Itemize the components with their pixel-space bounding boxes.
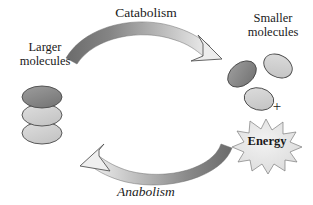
larger-molecules-label: Larger molecules xyxy=(5,41,85,68)
smaller-molecules-label: Smaller molecules xyxy=(235,12,311,39)
catabolism-arrow xyxy=(66,22,222,64)
anabolism-arrow xyxy=(80,144,232,185)
plus-sign-label: + xyxy=(268,98,286,114)
larger-ellipse-top xyxy=(22,86,62,108)
energy-label: Energy xyxy=(238,135,296,149)
anabolism-label: Anabolism xyxy=(86,185,206,200)
catabolism-label: Catabolism xyxy=(86,6,206,21)
smaller-ellipse-light-upper xyxy=(260,49,297,83)
larger-molecule-stack xyxy=(22,86,62,144)
diagram-canvas: Catabolism Anabolism Larger molecules Sm… xyxy=(0,0,313,205)
smaller-ellipse-dark xyxy=(223,55,262,92)
